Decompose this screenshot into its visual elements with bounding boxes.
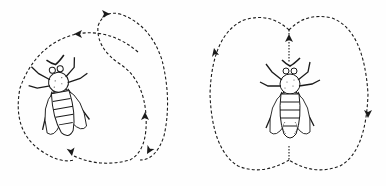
waggle-dance-panel: [210, 17, 372, 170]
arrow-icon: [67, 147, 76, 156]
arrow-icon: [74, 30, 82, 38]
round-dance-panel: [18, 10, 167, 163]
arrow-icon: [364, 110, 372, 118]
arrow-icon: [141, 112, 149, 120]
bee-dance-figure: [0, 0, 386, 186]
arrow-icon: [144, 145, 155, 156]
dance-path: [18, 13, 167, 163]
bee-illustration: [24, 51, 97, 140]
arrow-icon: [102, 10, 110, 18]
bee-illustration: [260, 58, 320, 138]
arrow-icon: [285, 34, 293, 42]
